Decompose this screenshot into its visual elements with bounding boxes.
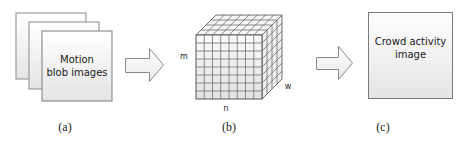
- panel-c-line2: image: [375, 48, 447, 61]
- panel-a-line1: Motion: [46, 53, 107, 66]
- caption-c: (c): [376, 120, 389, 135]
- data-cube: [196, 15, 282, 99]
- axis-label-w: w: [285, 82, 292, 91]
- panel-a-text: Motion blob images: [42, 31, 112, 101]
- axis-label-n: n: [223, 104, 228, 113]
- panel-c-line1: Crowd activity: [375, 35, 447, 48]
- panel-a-line2: blob images: [46, 66, 107, 79]
- panel-c-text: Crowd activity image: [368, 12, 453, 84]
- axis-label-m: m: [180, 52, 188, 61]
- caption-b: (b): [222, 120, 236, 135]
- pipeline-figure: Motion blob images Crowd activity image …: [0, 0, 468, 144]
- arrow-right-icon: [126, 49, 164, 82]
- caption-a: (a): [58, 120, 71, 135]
- arrow-right-icon: [317, 47, 353, 80]
